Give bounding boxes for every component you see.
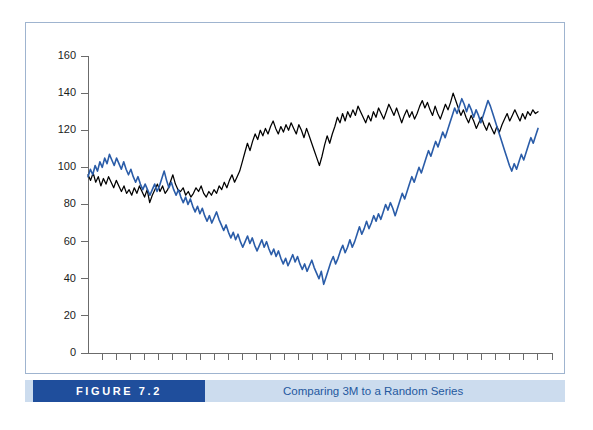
figure-container: 020406080100120140160 FIGURE 7.2 Compari… xyxy=(0,0,593,430)
figure-caption-text: Comparing 3M to a Random Series xyxy=(283,380,463,402)
chart-frame: 020406080100120140160 xyxy=(25,22,565,374)
series-line-random xyxy=(88,99,538,285)
figure-caption-bar: FIGURE 7.2 Comparing 3M to a Random Seri… xyxy=(25,380,565,402)
y-tick-label: 40 xyxy=(64,272,76,284)
y-tick-label: 20 xyxy=(64,309,76,321)
y-tick-label: 140 xyxy=(58,86,76,98)
y-tick-label: 0 xyxy=(70,346,76,358)
y-axis: 020406080100120140160 xyxy=(58,49,88,358)
y-tick-label: 100 xyxy=(58,160,76,172)
figure-number-badge: FIGURE 7.2 xyxy=(33,380,205,402)
y-tick-label: 80 xyxy=(64,197,76,209)
chart-canvas: 020406080100120140160 xyxy=(26,23,564,373)
y-tick-label: 120 xyxy=(58,123,76,135)
y-tick-label: 60 xyxy=(64,235,76,247)
x-axis xyxy=(88,353,552,360)
y-tick-label: 160 xyxy=(58,49,76,61)
